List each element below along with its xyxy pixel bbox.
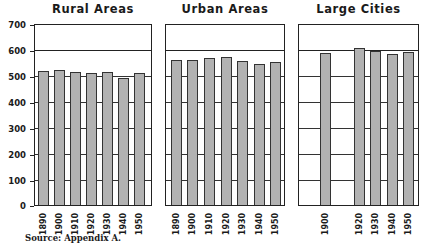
x-label-text: 1950: [271, 213, 280, 235]
bar-urban-1890: [171, 60, 182, 205]
x-label-text: 1920: [87, 213, 96, 235]
bar-rural-1910: [70, 72, 81, 205]
x-label-cities: 1920: [353, 211, 365, 237]
x-label-text: 1920: [222, 213, 231, 235]
x-label-text: 1950: [404, 213, 413, 235]
bar-cities-1940: [387, 54, 398, 205]
x-label-urban: 1900: [186, 211, 198, 237]
bar-urban-1950: [270, 62, 281, 205]
x-label-text: 1930: [371, 213, 380, 235]
bar-cities-1950: [403, 52, 414, 205]
x-label-cities: 1950: [402, 211, 414, 237]
bar-cities-1930: [370, 51, 381, 205]
bar-urban-1910: [204, 58, 215, 205]
x-label-urban: 1930: [236, 211, 248, 237]
y-tick-mark: [30, 206, 34, 207]
x-label-text: 1950: [135, 213, 144, 235]
gridline-600: [35, 50, 151, 51]
y-tick-200: 200: [0, 150, 26, 160]
x-label-text: 1890: [39, 213, 48, 235]
x-label-cities: 1900: [319, 211, 331, 237]
x-label-text: 1900: [188, 213, 197, 235]
bar-cities-1900: [320, 53, 331, 205]
bar-rural-1920: [86, 73, 97, 205]
y-tick-0: 0: [0, 201, 26, 211]
x-label-text: 1940: [388, 213, 397, 235]
bar-rural-1940: [118, 78, 129, 205]
y-tick-300: 300: [0, 124, 26, 134]
y-tick-600: 600: [0, 46, 26, 56]
bar-rural-1930: [102, 72, 113, 205]
x-label-urban: 1890: [170, 211, 182, 237]
y-tick-100: 100: [0, 176, 26, 186]
x-label-text: 1910: [205, 213, 214, 235]
bar-rural-1890: [38, 71, 49, 205]
x-label-text: 1930: [103, 213, 112, 235]
bar-urban-1940: [254, 64, 265, 205]
large-cities-title: Large Cities: [298, 2, 419, 16]
x-label-text: 1940: [255, 213, 264, 235]
x-label-text: 1890: [172, 213, 181, 235]
x-label-text: 1900: [55, 213, 64, 235]
source-note: Source: Appendix A.: [25, 233, 121, 243]
y-tick-400: 400: [0, 98, 26, 108]
y-tick-700: 700: [0, 20, 26, 30]
rural-areas-title: Rural Areas: [34, 2, 152, 16]
x-label-text: 1940: [119, 213, 128, 235]
bar-urban-1930: [237, 61, 248, 205]
x-label-text: 1910: [71, 213, 80, 235]
rural-areas-plot: [34, 24, 152, 206]
x-label-text: 1930: [238, 213, 247, 235]
bar-rural-1900: [54, 70, 65, 205]
x-label-rural: 1950: [133, 211, 145, 237]
x-label-urban: 1920: [220, 211, 232, 237]
urban-areas-plot: [165, 24, 285, 206]
urban-areas-title: Urban Areas: [165, 2, 285, 16]
x-label-cities: 1940: [386, 211, 398, 237]
bar-rural-1950: [134, 73, 145, 205]
y-tick-500: 500: [0, 72, 26, 82]
bar-urban-1900: [187, 60, 198, 205]
x-label-urban: 1940: [253, 211, 265, 237]
x-label-urban: 1950: [269, 211, 281, 237]
bar-urban-1920: [221, 57, 232, 205]
large-cities-plot: [298, 24, 419, 206]
x-label-urban: 1910: [203, 211, 215, 237]
x-label-text: 1900: [321, 213, 330, 235]
gridline-600: [166, 50, 284, 51]
bar-cities-1920: [354, 48, 365, 205]
x-label-text: 1920: [355, 213, 364, 235]
x-label-cities: 1930: [369, 211, 381, 237]
